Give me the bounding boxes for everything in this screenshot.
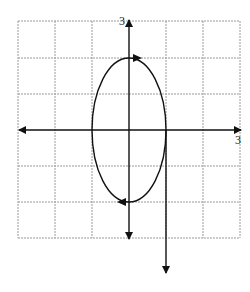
axes [19, 20, 241, 239]
x-max-label: 3 [235, 134, 241, 146]
graph-canvas [0, 0, 250, 292]
y-max-label: 3 [119, 15, 125, 27]
